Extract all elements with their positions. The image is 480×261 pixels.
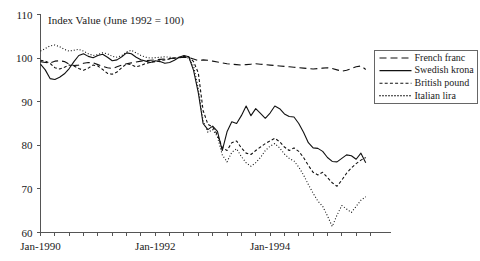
series-line-italian-lira	[41, 45, 366, 226]
legend-label-italian-lira: Italian lira	[415, 90, 457, 101]
series-line-swedish-krona	[41, 53, 366, 163]
y-tick-label: 60	[22, 227, 34, 239]
x-tick-label: Jan-1990	[20, 240, 61, 252]
legend-label-swedish-krona: Swedish krona	[415, 64, 475, 75]
legend-label-british-pound: British pound	[415, 77, 470, 88]
x-tick-label: Jan-1992	[135, 240, 175, 252]
legend-label-french-franc: French franc	[415, 52, 466, 63]
y-tick-label: 90	[22, 96, 34, 108]
series-line-french-franc	[41, 57, 366, 71]
y-tick-label: 110	[16, 9, 33, 21]
line-chart-canvas: Index Value (June 1992 = 100)60708090100…	[0, 0, 480, 261]
x-tick-label: Jan-1994	[250, 240, 291, 252]
y-tick-label: 70	[22, 183, 34, 195]
chart-figure: Index Value (June 1992 = 100)60708090100…	[0, 0, 480, 261]
y-tick-label: 80	[22, 139, 34, 151]
chart-title: Index Value (June 1992 = 100)	[48, 14, 184, 27]
y-tick-label: 100	[16, 52, 33, 64]
